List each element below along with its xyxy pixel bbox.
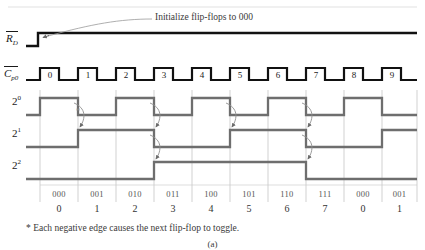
state-binary: 111 [306, 189, 344, 199]
annotation-leader-line [43, 19, 152, 38]
state-decimal: 3 [154, 203, 192, 214]
state-binary: 101 [230, 189, 268, 199]
state-decimal: 1 [382, 203, 417, 214]
bit1-waveform [26, 130, 417, 147]
state-binary: 110 [268, 189, 306, 199]
state-decimal: 5 [230, 203, 268, 214]
signal-label-reset: RD [6, 31, 18, 47]
state-binary: 000 [344, 189, 382, 199]
state-binary: 000 [40, 189, 78, 199]
clock-pulse-number: 4 [195, 70, 209, 80]
state-binary: 100 [192, 189, 230, 199]
footnote: * Each negative edge causes the next fli… [26, 223, 239, 233]
state-binary: 010 [116, 189, 154, 199]
bit0-waveform [26, 98, 417, 115]
state-binary: 011 [154, 189, 192, 199]
clock-pulse-number: 2 [119, 70, 133, 80]
bit2-waveform [26, 162, 417, 179]
asterisk-marker: * [76, 108, 80, 116]
reset-waveform [26, 33, 417, 46]
state-decimal: 4 [192, 203, 230, 214]
state-decimal: 0 [344, 203, 382, 214]
clock-pulse-number: 1 [81, 70, 95, 80]
state-decimal: 1 [78, 203, 116, 214]
state-decimal: 7 [306, 203, 344, 214]
signal-label-clock: Cp0 [4, 66, 18, 82]
clock-pulse-number: 3 [157, 70, 171, 80]
clock-pulse-number: 9 [385, 70, 399, 80]
figure-caption: (a) [0, 239, 425, 249]
clock-pulse-number: 6 [271, 70, 285, 80]
state-decimal: 0 [40, 203, 78, 214]
state-decimal: 2 [116, 203, 154, 214]
state-decimal: 6 [268, 203, 306, 214]
initialize-annotation: Initialize flip-flops to 000 [155, 12, 253, 22]
clock-pulse-number: 8 [347, 70, 361, 80]
signal-label-bit0: 20 [12, 95, 21, 107]
state-binary: 001 [78, 189, 116, 199]
clock-pulse-number: 7 [309, 70, 323, 80]
signal-label-bit1: 21 [12, 127, 21, 139]
signal-label-bit2: 22 [12, 159, 21, 171]
clock-pulse-number: 0 [43, 70, 57, 80]
clock-pulse-number: 5 [233, 70, 247, 80]
state-binary: 001 [382, 189, 417, 199]
timing-diagram-figure: RD Cp0 20 21 22 Initialize flip-flops to… [0, 0, 425, 250]
